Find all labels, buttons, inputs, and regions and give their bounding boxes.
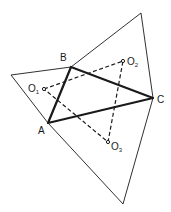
label-a: A xyxy=(38,125,45,136)
label-o3-sub: 3 xyxy=(119,147,123,153)
point-o2-marker xyxy=(121,59,124,62)
equilateral-triangle-on-ca xyxy=(48,98,153,204)
outer-equilateral-triangles xyxy=(11,13,153,204)
label-o1: O1 xyxy=(28,83,40,95)
label-o3: O3 xyxy=(111,141,123,153)
label-b: B xyxy=(60,52,67,63)
label-c: C xyxy=(157,94,164,105)
label-o1-sub: 1 xyxy=(36,89,40,95)
triangle-abc xyxy=(48,67,153,123)
label-o2: O2 xyxy=(127,56,139,68)
point-o1-marker xyxy=(42,87,45,90)
equilateral-triangle-on-ab xyxy=(11,67,71,123)
napoleon-diagram: A B C O1 O2 O3 xyxy=(0,0,171,212)
point-o3-marker xyxy=(106,140,109,143)
label-o2-sub: 2 xyxy=(135,62,139,68)
equilateral-triangle-on-bc xyxy=(71,13,153,98)
